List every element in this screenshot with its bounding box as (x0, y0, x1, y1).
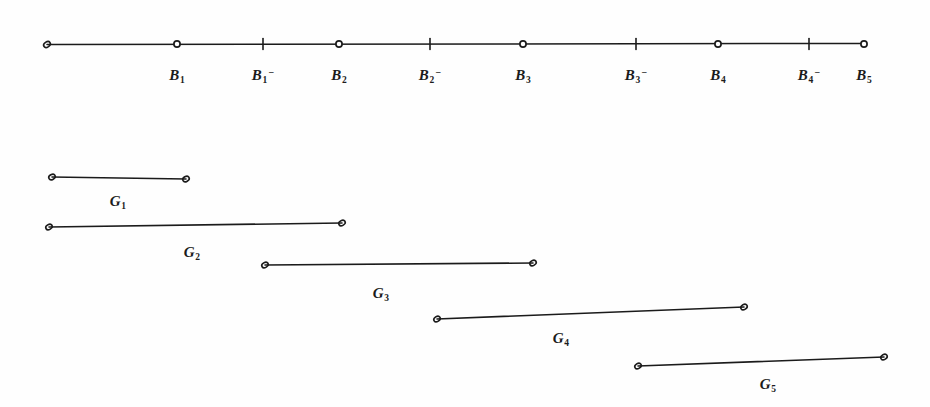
interval-segment-G5 (634, 353, 888, 370)
axis-label-B4: B4 (710, 68, 726, 85)
breakpoint-marker-circle (861, 41, 867, 47)
breakpoint-marker-circle (336, 41, 342, 47)
segment-label-subscript: 5 (771, 384, 776, 394)
axis-label-subscript: 5 (867, 75, 872, 85)
segment-label-G2: G2 (184, 245, 201, 262)
interval-segment-G3 (261, 259, 537, 269)
segment-label-G1: G1 (110, 194, 127, 211)
diagram-canvas (0, 0, 930, 407)
axis-label-superscript-minus: − (814, 67, 820, 78)
interval-segment-G1 (48, 173, 190, 183)
breakpoint-marker-circle (520, 41, 526, 47)
axis-label-B2: B2 (331, 68, 347, 85)
segment-label-subscript: 1 (121, 201, 126, 211)
breakpoint-marker-circle (174, 41, 180, 47)
segment-label-G5: G5 (760, 377, 777, 394)
axis-label-subscript: 2 (342, 75, 347, 85)
segment-label-G4: G4 (553, 331, 570, 348)
segment-line (638, 357, 884, 366)
interval-diagram-figure: B1B1−B2B2−B3B3−B4B4−B5G1G2G3G4G5 (0, 0, 930, 407)
segment-line (265, 263, 533, 265)
axis-label-subscript: 1 (180, 75, 185, 85)
axis-label-B2-minus: B2− (419, 68, 442, 85)
axis-label-subscript: 3 (526, 75, 531, 85)
segment-line (52, 177, 186, 179)
segment-label-subscript: 3 (384, 293, 389, 303)
interval-segment-G4 (433, 303, 748, 323)
segment-label-subscript: 2 (195, 252, 200, 262)
axis-label-subscript: 4 (808, 75, 813, 85)
axis-label-B4-minus: B4− (798, 68, 821, 85)
axis-label-subscript: 1 (262, 75, 267, 85)
axis-label-superscript-minus: − (641, 67, 647, 78)
segment-line (49, 223, 342, 227)
segment-label-subscript: 4 (564, 338, 569, 348)
axis-label-B3-minus: B3− (625, 68, 648, 85)
axis-label-subscript: 2 (429, 75, 434, 85)
axis-label-superscript-minus: − (268, 67, 274, 78)
interval-segment-G2 (45, 219, 346, 231)
breakpoint-marker-circle (715, 41, 721, 47)
segment-label-G3: G3 (373, 286, 390, 303)
axis-label-superscript-minus: − (435, 67, 441, 78)
axis-label-subscript: 4 (721, 75, 726, 85)
axis-label-B5: B5 (856, 68, 872, 85)
axis-label-B3: B3 (515, 68, 531, 85)
axis-label-subscript: 3 (635, 75, 640, 85)
segment-line (437, 307, 744, 319)
axis-label-B1-minus: B1− (252, 68, 275, 85)
axis-line (47, 44, 864, 45)
axis-label-B1: B1 (169, 68, 185, 85)
